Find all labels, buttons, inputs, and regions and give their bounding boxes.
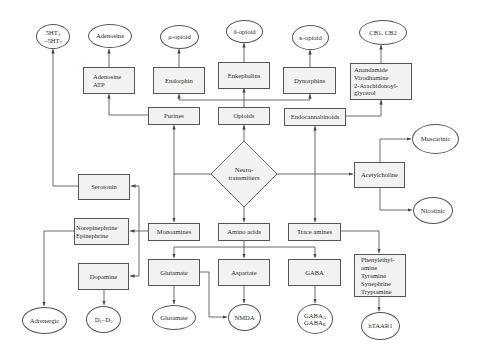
transmitter-norepinephrine: Norepinephrine Epinephrine	[74, 218, 129, 245]
transmitter-endocannabinoid-list: Anandamide Virodhamine 2-Arachidonoyl- g…	[350, 63, 412, 100]
receptor-gaba-b-sub: B	[323, 322, 326, 327]
receptor-cannabinoid: CB1, CB2	[359, 20, 407, 45]
category-amino-acids: Amino acids	[218, 223, 270, 241]
transmitter-serotonin: Serotonin	[78, 174, 130, 200]
receptor-dopamine-b: –D	[102, 316, 110, 323]
receptor-serotonin-b-sub: 7	[60, 40, 62, 45]
receptor-delta-opioid: δ-opioid	[226, 20, 263, 43]
category-purines: Purines	[148, 107, 200, 125]
receptor-glutamate: Glutamate	[152, 305, 196, 330]
receptor-serotonin: 5HT1 –5HT7	[36, 24, 70, 49]
category-endocannabinoids: Endocannabinoids	[284, 108, 346, 126]
category-trace-amines: Trace amines	[288, 223, 341, 241]
receptor-nicotinic: Nicotinic	[413, 197, 453, 224]
receptor-htaar1: hTAAR1	[361, 312, 400, 340]
category-monoamines: Monoamines	[148, 223, 200, 241]
receptor-dopamine: D1–D5	[86, 306, 121, 333]
category-opioids: Opioids	[218, 107, 270, 125]
transmitter-gaba: GABA	[288, 259, 341, 286]
category-acetylcholine: Acetylcholine	[354, 162, 405, 188]
receptor-dopamine-b-sub: 5	[110, 319, 112, 324]
center-label-line1: Neuro-	[235, 166, 254, 173]
receptor-serotonin-a: 5HT	[46, 29, 58, 36]
transmitter-adenosine-atp: Adenosine ATP	[83, 67, 135, 94]
receptor-muscarinic: Muscarinic	[412, 124, 459, 154]
receptor-gaba-b: GABA	[304, 319, 323, 326]
receptor-adrenergic: Adrenergic	[22, 307, 67, 334]
center-label: Neuro- transmitters	[214, 166, 274, 182]
transmitter-endorphin: Endorphin	[153, 67, 205, 94]
transmitter-glutamate: Glutamate	[148, 259, 200, 286]
receptor-mu-opioid: μ-opioid	[160, 25, 199, 49]
transmitter-dopamine: Dopamine	[78, 263, 129, 290]
receptor-nmda: NMDA	[228, 304, 261, 331]
transmitter-dynorphins: Dynorphins	[283, 67, 336, 94]
receptor-gaba-a: GABA	[304, 312, 323, 319]
receptor-gaba: GABAA GABAB	[297, 304, 333, 334]
transmitter-enkephalins: Enkephalins	[218, 62, 270, 89]
center-label-line2: transmitters	[228, 174, 259, 181]
receptor-kappa-opioid: κ-opioid	[292, 25, 329, 50]
transmitter-trace-amine-list: Phenylethyl- amine Tyramine Synephrine T…	[354, 254, 406, 297]
receptor-serotonin-b: –5HT	[44, 37, 59, 44]
transmitter-aspartate: Aspartate	[218, 259, 270, 286]
receptor-adenosine: Adenosine	[88, 24, 132, 48]
